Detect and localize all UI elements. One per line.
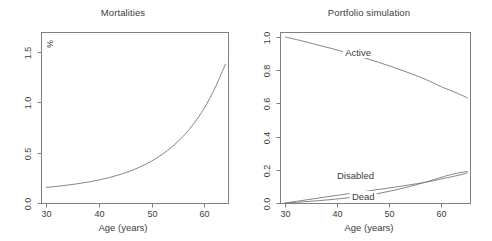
y-tick-label: 0.4 [262, 131, 272, 144]
y-tick-label: 1.0 [262, 31, 272, 44]
plot-frame [42, 33, 229, 204]
x-tick-label: 50 [147, 209, 157, 219]
y-axis-unit-label: % [45, 40, 55, 48]
x-tick-label: 40 [332, 209, 342, 219]
x-tick-label: 60 [436, 209, 446, 219]
y-tick-label: 0.6 [262, 97, 272, 110]
y-tick-label: 1.0 [23, 96, 33, 109]
y-tick-label: 0.2 [262, 164, 272, 177]
x-tick-label: 60 [199, 209, 209, 219]
series-curve-active [285, 37, 467, 98]
chart-panel-mortalities: Mortalities Age (years) 304050600.00.51.… [0, 0, 246, 241]
chart-panel-portfolio: Portfolio simulation Age (years) 3040506… [246, 0, 492, 241]
x-tick-label: 30 [280, 209, 290, 219]
plot-area-mortalities [0, 0, 246, 241]
y-tick-label: 0.0 [23, 197, 33, 210]
figure-canvas: Mortalities Age (years) 304050600.00.51.… [0, 0, 492, 241]
y-tick-label: 1.5 [23, 46, 33, 59]
series-curve-mortality [46, 64, 225, 187]
plot-area-portfolio [246, 0, 492, 241]
x-tick-label: 30 [41, 209, 51, 219]
x-axis-label-left: Age (years) [0, 222, 246, 233]
curve-annotation-disabled: Disabled [335, 170, 376, 181]
y-tick-label: 0.0 [262, 197, 272, 210]
x-tick-label: 40 [94, 209, 104, 219]
y-tick-label: 0.5 [23, 147, 33, 160]
curve-annotation-dead: Dead [350, 191, 377, 202]
x-axis-label-right: Age (years) [246, 222, 492, 233]
y-tick-label: 0.8 [262, 64, 272, 77]
x-tick-label: 50 [384, 209, 394, 219]
curve-annotation-active: Active [343, 47, 373, 58]
